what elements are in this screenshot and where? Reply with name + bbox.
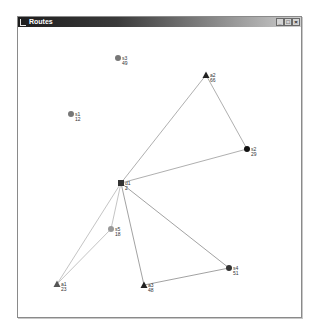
route-edge-a2-s2 <box>206 75 247 149</box>
window-title: Routes <box>29 17 53 27</box>
route-edge-s2-d1 <box>121 149 247 183</box>
app-icon[interactable] <box>20 19 26 26</box>
route-edge-d1-a2 <box>121 75 206 183</box>
minimize-button[interactable]: _ <box>276 18 284 26</box>
node-s3[interactable]: s349 <box>115 55 128 67</box>
window-controls: _ □ × <box>276 18 300 26</box>
node-value: 48 <box>148 287 154 293</box>
route-edge-s5-a1 <box>57 229 111 284</box>
title-bar[interactable]: Routes _ □ × <box>18 17 301 27</box>
route-edge-a3-s4 <box>144 268 229 285</box>
node-a3[interactable]: a348 <box>141 282 154 294</box>
route-edge-a1-d1 <box>57 183 121 284</box>
circle-marker-icon <box>244 146 250 152</box>
node-s2[interactable]: s229 <box>244 146 257 158</box>
circle-marker-icon <box>68 111 74 117</box>
node-value: 51 <box>233 270 239 276</box>
node-s1[interactable]: s112 <box>68 111 81 123</box>
triangle-marker-icon <box>203 72 210 79</box>
node-a1[interactable]: a123 <box>54 281 67 293</box>
node-a2[interactable]: a266 <box>203 72 216 84</box>
square-marker-icon <box>118 180 124 186</box>
node-value: 12 <box>75 116 81 122</box>
node-s5[interactable]: s518 <box>108 226 121 238</box>
circle-marker-icon <box>115 55 121 61</box>
route-graph: s349s112a266s229d12s518a123a348s451 <box>18 27 301 317</box>
edges-layer <box>57 75 247 285</box>
node-value: 18 <box>115 231 121 237</box>
circle-marker-icon <box>226 265 232 271</box>
circle-marker-icon <box>108 226 114 232</box>
routes-window: Routes _ □ × s349s112a266s229d12s518a123… <box>17 16 302 318</box>
maximize-button[interactable]: □ <box>284 18 292 26</box>
node-value: 23 <box>61 286 67 292</box>
route-canvas[interactable]: s349s112a266s229d12s518a123a348s451 <box>18 27 301 317</box>
node-value: 29 <box>251 151 257 157</box>
node-value: 49 <box>122 60 128 66</box>
node-s4[interactable]: s451 <box>226 265 239 277</box>
node-value: 66 <box>210 77 216 83</box>
route-edge-d1-s5 <box>111 183 121 229</box>
node-value: 2 <box>125 185 128 191</box>
close-button[interactable]: × <box>292 18 300 26</box>
